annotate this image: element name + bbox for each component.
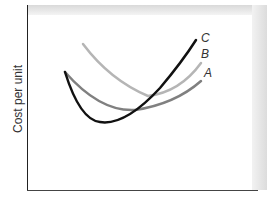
curve-a — [65, 72, 201, 110]
label-b: B — [201, 47, 209, 61]
label-a: A — [203, 66, 212, 80]
curve-b — [83, 44, 201, 96]
label-c: C — [201, 31, 210, 45]
chart-canvas: C B A — [0, 0, 267, 199]
